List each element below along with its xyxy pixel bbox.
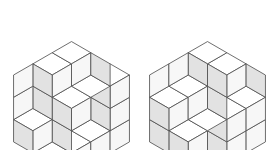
- hexagon-right: [150, 42, 266, 150]
- rhombille-tiling-figure: [0, 0, 274, 150]
- hexagon-left: [14, 42, 130, 150]
- figure-canvas: [0, 0, 274, 150]
